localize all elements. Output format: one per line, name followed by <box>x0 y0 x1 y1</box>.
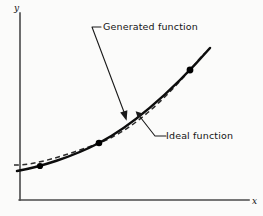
generated-function-leader <box>92 27 127 121</box>
intersection-point-3 <box>187 67 194 74</box>
intersection-point-2 <box>96 140 103 147</box>
generated-function-label: Generated function <box>103 22 198 32</box>
x-axis-label: x <box>252 197 257 206</box>
ideal-function-label: Ideal function <box>166 131 233 141</box>
ideal-function-leader <box>136 111 166 136</box>
intersection-point-1 <box>37 163 43 169</box>
generated-function-curve <box>14 53 205 165</box>
y-axis-label: y <box>14 4 19 13</box>
generated-leader-arrow-icon <box>120 110 127 121</box>
ideal-function-curve <box>17 48 210 171</box>
figure-drawing <box>0 0 263 216</box>
figure-container: Generated function Ideal function y x <box>0 0 263 216</box>
